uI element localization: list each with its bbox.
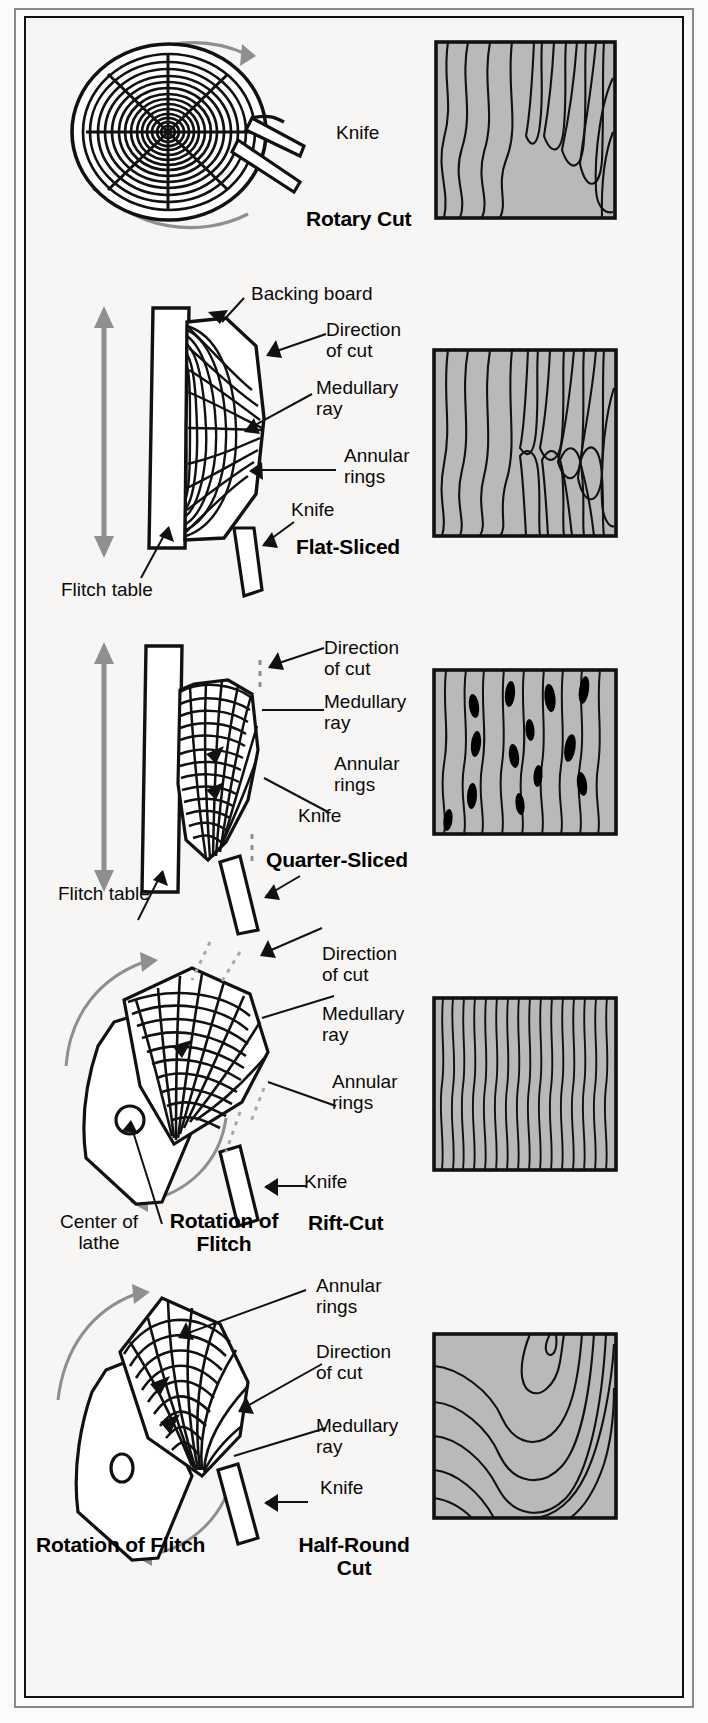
quarter-medullary-ray-label: Medullary ray <box>324 692 406 733</box>
flitch-table-icon <box>149 308 189 548</box>
quarter-direction-of-cut-label: Direction of cut <box>324 638 399 679</box>
rift-knife-label: Knife <box>304 1172 347 1193</box>
quarter-annular-rings-label: Annular rings <box>334 754 400 795</box>
quarter-flitch-table-label: Flitch table <box>58 884 150 905</box>
flat-medullary-ray-label: Medullary ray <box>316 378 398 419</box>
veneer-sheet-rotary <box>434 40 617 220</box>
half-round-annular-rings-label: Annular rings <box>316 1276 382 1317</box>
rift-direction-of-cut-label: Direction of cut <box>322 944 397 985</box>
half-round-rotation-of-flitch-label: Rotation of Flitch <box>36 1534 205 1557</box>
section-quarter-sliced: Direction of cut Medullary ray Annular r… <box>26 606 686 924</box>
quarter-log-icon <box>178 680 258 860</box>
knife-icon <box>220 856 258 934</box>
knife-icon <box>218 1464 258 1544</box>
quarter-sliced-title: Quarter-Sliced <box>266 849 408 872</box>
rift-cut-title: Rift-Cut <box>308 1212 383 1235</box>
veneer-sheet-rift-cut <box>432 996 618 1172</box>
section-half-round-cut: Annular rings Direction of cut Medullary… <box>26 1270 686 1610</box>
inner-border: Knife Rotary Cut <box>24 16 684 1698</box>
section-rotary-cut: Knife Rotary Cut <box>26 18 686 253</box>
flat-knife-label: Knife <box>291 500 334 521</box>
half-round-knife-label: Knife <box>320 1478 363 1499</box>
veneer-sheet-quarter-sliced <box>432 668 618 836</box>
flat-flitch-table-label: Flitch table <box>61 580 153 601</box>
section-flat-sliced: Backing board Direction of cut Medullary… <box>26 268 686 598</box>
knife-icon <box>234 528 262 596</box>
flat-backing-board-label: Backing board <box>251 284 372 305</box>
up-down-arrow-icon <box>94 306 114 558</box>
veneer-sheet-flat-sliced <box>432 348 618 538</box>
flat-direction-of-cut-label: Direction of cut <box>326 320 401 361</box>
rift-center-of-lathe-label: Center of lathe <box>44 1212 154 1253</box>
flat-sliced-title: Flat-Sliced <box>296 536 400 559</box>
flitch-table-icon <box>142 646 182 892</box>
rift-annular-rings-label: Annular rings <box>332 1072 398 1113</box>
veneer-sheet-half-round <box>432 1332 618 1520</box>
rift-rotation-of-flitch-label: Rotation of Flitch <box>154 1210 294 1255</box>
medullary-rays <box>86 53 252 211</box>
flat-sliced-illustration <box>56 278 476 608</box>
half-round-medullary-ray-label: Medullary ray <box>316 1416 398 1457</box>
rotary-cut-title: Rotary Cut <box>306 208 411 231</box>
rift-cut-illustration <box>44 936 464 1256</box>
rotary-knife-label: Knife <box>336 123 379 144</box>
flat-annular-rings-label: Annular rings <box>344 446 410 487</box>
up-down-arrow-icon <box>94 642 114 892</box>
diagram-page: Knife Rotary Cut <box>0 0 708 1723</box>
quarter-knife-label: Knife <box>298 806 341 827</box>
rotary-cut-illustration <box>56 26 476 256</box>
section-rift-cut: Direction of cut Medullary ray Annular r… <box>26 924 686 1244</box>
half-round-cut-title: Half-Round Cut <box>274 1534 434 1579</box>
half-round-direction-of-cut-label: Direction of cut <box>316 1342 391 1383</box>
rift-medullary-ray-label: Medullary ray <box>322 1004 404 1045</box>
